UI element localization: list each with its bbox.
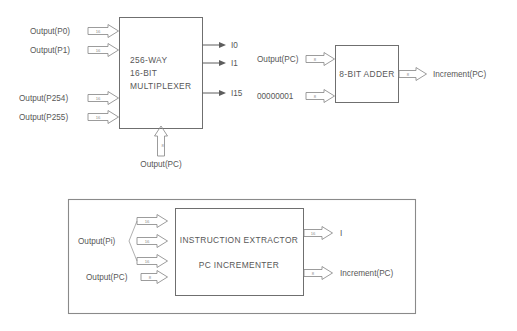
multiplexer-select-arrow bbox=[155, 126, 168, 156]
combined-section: INSTRUCTION EXTRACTOR PC INCREMENTER Out… bbox=[69, 200, 416, 314]
adder-input-pc-label: Output(PC) bbox=[257, 55, 299, 64]
combined-bus-fanout-bracket bbox=[129, 221, 137, 261]
combined-bus-branch-1-arrow bbox=[137, 235, 168, 248]
multiplexer-output-i0: I0 bbox=[203, 41, 239, 50]
multiplexer-input-254-label: Output(P254) bbox=[19, 94, 68, 103]
multiplexer-input-0-bitwidth: 16 bbox=[96, 29, 101, 34]
multiplexer-output-i1-arrowhead bbox=[219, 60, 226, 66]
combined-output-increment-label: Increment(PC) bbox=[340, 269, 394, 278]
multiplexer-input-254-bitwidth: 16 bbox=[96, 96, 101, 101]
combined-output-increment: 8 Increment(PC) bbox=[304, 267, 394, 280]
multiplexer-label-line2: 16-BIT bbox=[130, 68, 157, 78]
multiplexer-label-line3: MULTIPLEXER bbox=[130, 81, 191, 91]
combined-label-line1: INSTRUCTION EXTRACTOR bbox=[180, 235, 298, 245]
combined-output-increment-bitwidth: 8 bbox=[312, 271, 315, 276]
multiplexer-input-0-label: Output(P0) bbox=[30, 27, 70, 36]
multiplexer-input-255: Output(P255) 16 bbox=[19, 111, 119, 124]
combined-pc-input-bitwidth: 8 bbox=[149, 275, 152, 280]
multiplexer-input-1: Output(P1) 16 bbox=[30, 44, 119, 57]
multiplexer-input-1-label: Output(P1) bbox=[30, 46, 70, 55]
multiplexer-input-1-bitwidth: 16 bbox=[96, 48, 101, 53]
combined-bus-branch-2-bitwidth: 16 bbox=[145, 259, 150, 264]
combined-label-line2: PC INCREMENTER bbox=[199, 260, 279, 270]
adder-input-constant-label: 00000001 bbox=[257, 92, 294, 101]
combined-pc-input: Output(PC) 8 bbox=[86, 271, 168, 284]
combined-bus-branch-0-bitwidth: 16 bbox=[145, 219, 150, 224]
adder-input-pc-arrow bbox=[306, 53, 335, 66]
multiplexer-label-line1: 256-WAY bbox=[130, 55, 167, 65]
combined-bus-branch-0-arrow bbox=[137, 215, 168, 228]
multiplexer-input-1-arrow bbox=[88, 44, 119, 57]
multiplexer-input-254: Output(P254) 16 bbox=[19, 92, 119, 105]
combined-output-i-arrow bbox=[304, 227, 333, 240]
multiplexer-output-i0-arrowhead bbox=[219, 42, 226, 48]
adder-input-pc: Output(PC) 8 bbox=[257, 53, 335, 66]
adder-output-bitwidth: 8 bbox=[407, 72, 410, 77]
multiplexer-input-254-arrow bbox=[88, 92, 119, 105]
adder-input-pc-bitwidth: 8 bbox=[314, 57, 317, 62]
multiplexer-output-i15-label: I15 bbox=[231, 89, 243, 98]
combined-bus-branch-1-bitwidth: 16 bbox=[145, 239, 150, 244]
adder-output-arrow bbox=[399, 68, 427, 81]
multiplexer-section: 256-WAY 16-BIT MULTIPLEXER Output(P0) 16… bbox=[19, 18, 243, 170]
combined-bus-branch-2-arrow bbox=[137, 255, 168, 268]
multiplexer-input-255-bitwidth: 16 bbox=[96, 115, 101, 120]
combined-bus-input-label: Output(Pi) bbox=[78, 237, 116, 246]
multiplexer-output-i1: I1 bbox=[203, 59, 239, 68]
multiplexer-output-i0-label: I0 bbox=[231, 41, 238, 50]
combined-output-i-bitwidth: 16 bbox=[311, 231, 316, 236]
adder-output-label: Increment(PC) bbox=[433, 70, 487, 79]
adder-input-constant-bitwidth: 8 bbox=[314, 94, 317, 99]
multiplexer-input-255-label: Output(P255) bbox=[19, 113, 68, 122]
multiplexer-output-i15-arrowhead bbox=[219, 90, 226, 96]
adder-input-constant: 00000001 8 bbox=[257, 90, 335, 103]
diagram-root: 256-WAY 16-BIT MULTIPLEXER Output(P0) 16… bbox=[0, 0, 517, 331]
combined-outer-box bbox=[69, 200, 416, 314]
multiplexer-input-0: Output(P0) 16 bbox=[30, 25, 119, 38]
multiplexer-input-0-arrow bbox=[88, 25, 119, 38]
combined-output-i: 16 I bbox=[304, 227, 342, 240]
combined-pc-input-label: Output(PC) bbox=[86, 273, 128, 282]
multiplexer-select-label: Output(PC) bbox=[140, 160, 182, 169]
diagram-canvas: 256-WAY 16-BIT MULTIPLEXER Output(P0) 16… bbox=[0, 0, 517, 331]
adder-input-constant-arrow bbox=[306, 90, 335, 103]
combined-inner-box bbox=[176, 209, 304, 296]
combined-bus-input: Output(Pi) 16 16 16 bbox=[78, 215, 168, 268]
combined-output-increment-arrow bbox=[304, 267, 333, 280]
multiplexer-input-255-arrow bbox=[88, 111, 119, 124]
adder-label: 8-BIT ADDER bbox=[339, 69, 394, 79]
multiplexer-output-i15: I15 bbox=[203, 89, 243, 98]
multiplexer-output-i1-label: I1 bbox=[231, 59, 238, 68]
combined-output-i-label: I bbox=[340, 229, 342, 238]
adder-section: 8-BIT ADDER Output(PC) 8 00000001 8 8 In… bbox=[257, 46, 487, 103]
combined-pc-input-arrow bbox=[141, 271, 168, 284]
adder-output-increment: 8 Increment(PC) bbox=[399, 68, 487, 81]
multiplexer-select-input: 8 Output(PC) bbox=[140, 126, 182, 169]
